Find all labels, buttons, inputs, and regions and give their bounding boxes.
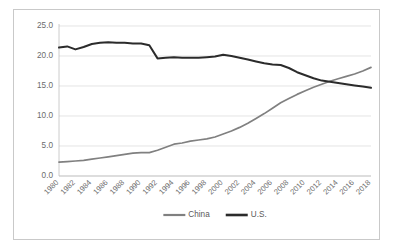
x-axis-tick-label: 2006	[256, 178, 274, 196]
x-axis-tick-label: 2008	[272, 178, 290, 196]
y-axis-tick-label: 10.0	[37, 111, 53, 120]
line-chart: 0.05.010.015.020.025.0198019821984198619…	[14, 10, 381, 241]
x-axis-tick-label: 1986	[91, 178, 109, 196]
x-axis-tick-label: 1994	[157, 178, 175, 196]
x-axis-tick-label: 1980	[42, 178, 60, 196]
y-axis-tick-label: 0.0	[42, 171, 54, 180]
chart-plot-area: 0.05.010.015.020.025.0198019821984198619…	[14, 10, 381, 241]
x-axis-tick-label: 2012	[305, 178, 323, 196]
x-axis-tick-label: 2014	[321, 178, 339, 196]
x-axis-tick-label: 1996	[173, 178, 191, 196]
legend-label-us: U.S.	[251, 210, 267, 219]
x-axis-tick-label: 2016	[338, 178, 356, 196]
x-axis-tick-label: 2000	[206, 178, 224, 196]
x-axis-tick-label: 1984	[75, 178, 93, 196]
legend-label-china: China	[188, 210, 210, 219]
x-axis-tick-label: 2018	[354, 178, 372, 196]
x-axis-tick-label: 2002	[223, 178, 241, 196]
x-axis-tick-label: 1990	[124, 178, 142, 196]
x-axis-tick-label: 1982	[59, 178, 77, 196]
x-axis-tick-label: 1998	[190, 178, 208, 196]
chart-container: 0.05.010.015.020.025.0198019821984198619…	[13, 9, 380, 240]
y-axis-tick-label: 20.0	[37, 51, 53, 60]
x-axis-tick-label: 2010	[288, 178, 306, 196]
y-axis-tick-label: 15.0	[37, 81, 53, 90]
x-axis-tick-label: 2004	[239, 178, 257, 196]
y-axis-tick-label: 5.0	[42, 141, 54, 150]
series-line-us	[59, 42, 371, 88]
x-axis-tick-label: 1988	[108, 178, 126, 196]
y-axis-tick-label: 25.0	[37, 21, 53, 30]
x-axis-tick-label: 1992	[141, 178, 159, 196]
